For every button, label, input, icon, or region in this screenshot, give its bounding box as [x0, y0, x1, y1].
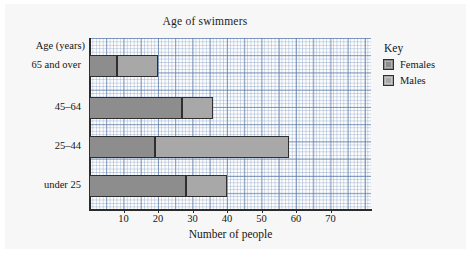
x-tick-label: 50: [256, 213, 267, 224]
chart-title: Age of swimmers: [90, 15, 320, 27]
y-axis-labels: Age (years) 65 and over45–6425–44under 2…: [0, 0, 85, 258]
legend-item: Females: [383, 59, 469, 70]
bar-group: [89, 136, 289, 158]
legend-swatch-males: [383, 75, 394, 86]
bar-segment-males: [155, 136, 290, 158]
legend: Key FemalesMales: [383, 42, 469, 91]
legend-items: FemalesMales: [383, 59, 469, 86]
x-tick-label: 70: [325, 213, 336, 224]
y-axis-label: 25–44: [55, 140, 81, 151]
x-tick-label: 30: [187, 213, 198, 224]
legend-swatch-females: [383, 59, 394, 70]
y-axis-title: Age (years): [36, 40, 85, 51]
y-axis-label: under 25: [44, 179, 81, 190]
x-tick-label: 40: [222, 213, 233, 224]
legend-label: Males: [400, 75, 426, 86]
legend-item: Males: [383, 75, 469, 86]
x-tick-label: 20: [153, 213, 164, 224]
bar-segment-males: [182, 97, 213, 119]
x-tick-label: 10: [118, 213, 129, 224]
bar-segment-females: [89, 97, 182, 119]
y-axis-label: 45–64: [55, 101, 81, 112]
y-axis-label: 65 and over: [31, 59, 81, 70]
bar-segment-females: [89, 136, 155, 158]
bar-group: [89, 97, 213, 119]
bar-segment-females: [89, 175, 186, 197]
x-axis-title: Number of people: [89, 228, 372, 240]
bar-segment-males: [186, 175, 227, 197]
legend-label: Females: [400, 59, 435, 70]
bar-group: [89, 175, 227, 197]
bar-group: [89, 55, 158, 77]
legend-title: Key: [383, 42, 469, 54]
bar-segment-males: [117, 55, 158, 77]
x-tick-label: 60: [291, 213, 302, 224]
chart-page: Age of swimmers Age (years) 65 and over4…: [0, 0, 469, 258]
bar-segment-females: [89, 55, 117, 77]
